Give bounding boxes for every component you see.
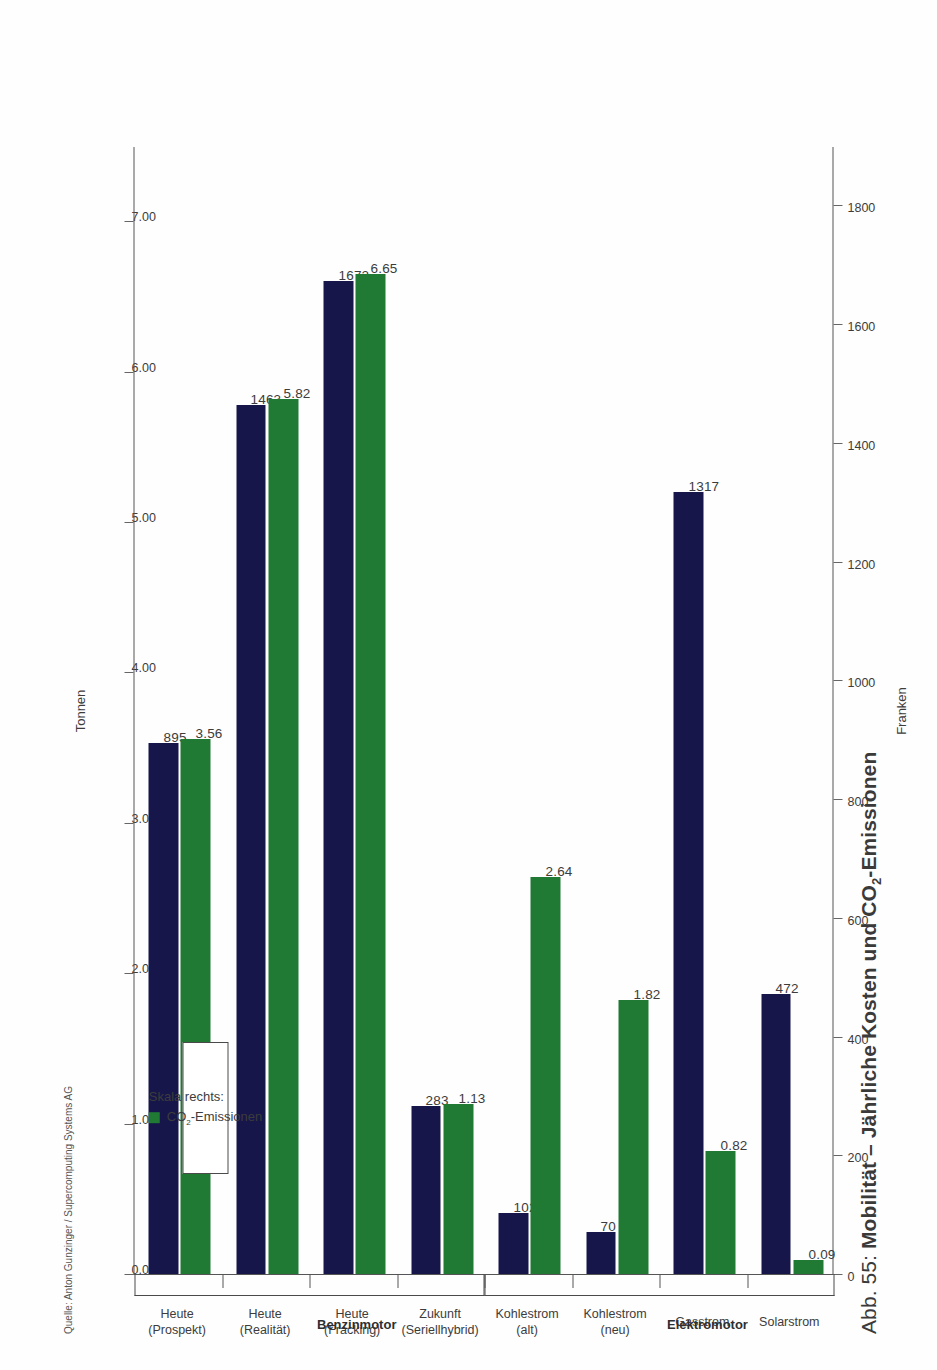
category-label-line2: (Prospekt) — [148, 1323, 206, 1339]
franken-tick-label: 800 — [847, 795, 868, 809]
legend-co2-swatch — [148, 1113, 159, 1124]
bar-group: 13170.82 — [659, 147, 747, 1274]
category-separator — [397, 1274, 398, 1288]
category-separator — [747, 1274, 748, 1288]
legend-co2-title: Skala rechts: — [148, 1089, 262, 1104]
rotated-figure-canvas: Abb. 55: Mobilität – Jährliche Kosten un… — [0, 0, 937, 1370]
figure-title-main: Mobilität – Jährliche Kosten und CO — [856, 885, 879, 1249]
franken-tick-label: 600 — [847, 914, 868, 928]
category-separator — [572, 1274, 573, 1288]
category-label-line2: (alt) — [495, 1323, 558, 1339]
bar-value-label-kosten: 1317 — [688, 479, 719, 494]
bar-group: 16726.65 — [309, 147, 397, 1274]
bar-value-label-co2: 6.65 — [370, 260, 397, 275]
bar-group: 2831.13 — [397, 147, 485, 1274]
bar-co2 — [180, 739, 210, 1274]
bar-value-label-kosten: 70 — [600, 1219, 615, 1234]
bar-kosten — [761, 994, 791, 1274]
category-separator — [659, 1274, 660, 1288]
figure-title-tail: -Emissionen — [856, 752, 879, 878]
franken-tick-label: 0 — [847, 1270, 854, 1284]
category-separator — [222, 1274, 223, 1288]
bar-value-label-co2: 0.09 — [808, 1247, 835, 1262]
bar-co2 — [618, 1000, 648, 1274]
bar-kosten — [148, 743, 178, 1274]
bar-co2 — [530, 877, 560, 1274]
bar-value-label-co2: 5.82 — [283, 385, 310, 400]
figure-page: Abb. 55: Mobilität – Jährliche Kosten un… — [0, 0, 937, 1370]
source-note: Quelle: Anton Gunzinger / Supercomputing… — [62, 1086, 73, 1334]
legend-co2-label: CO2-Emissionen — [166, 1109, 262, 1127]
bar-kosten — [236, 405, 266, 1274]
bar-value-label-kosten: 472 — [775, 980, 798, 995]
tonnen-axis-title: Tonnen — [72, 147, 87, 1275]
category-label-line2: (Seriellhybrid) — [401, 1323, 478, 1339]
figure-title-prefix: Abb. 55: — [856, 1255, 879, 1334]
bar-value-label-co2: 2.64 — [545, 863, 572, 878]
bar-kosten — [411, 1106, 441, 1274]
franken-tick-label: 1400 — [847, 439, 875, 453]
bar-kosten — [498, 1213, 528, 1274]
bar-value-label-co2: 0.82 — [720, 1137, 747, 1152]
category-label-line2: (neu) — [583, 1323, 646, 1339]
franken-axis-title: Franken — [893, 147, 908, 1275]
bar-kosten — [586, 1232, 616, 1274]
legend-co2-row: CO2-Emissionen — [148, 1109, 262, 1127]
bar-kosten — [323, 281, 353, 1274]
category-separator — [484, 1274, 485, 1288]
franken-tick-label: 1600 — [847, 320, 875, 334]
bar-value-label-co2: 3.56 — [195, 725, 222, 740]
group-label: Elektromotor — [667, 1317, 748, 1332]
legend-co2: Skala rechts: CO2-Emissionen — [182, 1042, 228, 1174]
bar-group: 701.82 — [572, 147, 660, 1274]
franken-tick-label: 1200 — [847, 558, 875, 572]
bar-value-label-co2: 1.82 — [633, 987, 660, 1002]
bar-kosten — [673, 492, 703, 1274]
category-label-line2: (Realität) — [239, 1323, 290, 1339]
franken-tick-label: 400 — [847, 1033, 868, 1047]
bar-co2 — [705, 1151, 735, 1274]
group-label: Benzinmotor — [317, 1317, 396, 1332]
bar-value-label-co2: 1.13 — [458, 1091, 485, 1106]
bar-group: 1022.64 — [484, 147, 572, 1274]
bar-co2 — [793, 1260, 823, 1274]
bar-co2 — [355, 274, 385, 1274]
franken-tick-label: 200 — [847, 1151, 868, 1165]
group-axis: BenzinmotorElektromotor — [134, 1274, 832, 1322]
franken-tick-label: 1800 — [847, 201, 875, 215]
category-separator — [309, 1274, 310, 1288]
franken-tick-label: 1000 — [847, 676, 875, 690]
figure-title-sub: 2 — [868, 878, 883, 885]
bar-group: 4720.09 — [747, 147, 835, 1274]
bar-co2 — [443, 1104, 473, 1274]
bar-co2 — [268, 399, 298, 1274]
